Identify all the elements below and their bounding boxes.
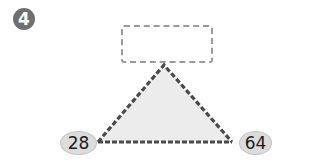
left-number-bubble: 28 bbox=[60, 131, 97, 155]
right-number-bubble: 64 bbox=[239, 131, 272, 155]
